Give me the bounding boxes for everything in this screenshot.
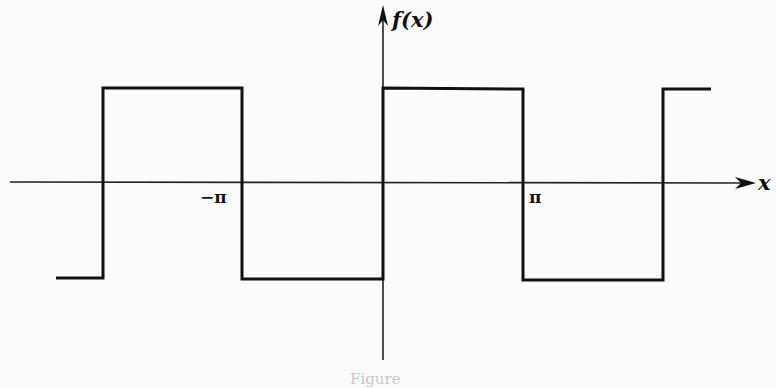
square-wave-line (56, 88, 711, 280)
y-axis-label: f(x) (392, 9, 433, 30)
x-axis (10, 182, 750, 183)
x-axis-label: x (758, 172, 771, 193)
tick-label-neg-pi: −π (200, 189, 227, 206)
figure-caption: Figure (350, 372, 401, 387)
tick-label-pi: π (529, 189, 541, 206)
